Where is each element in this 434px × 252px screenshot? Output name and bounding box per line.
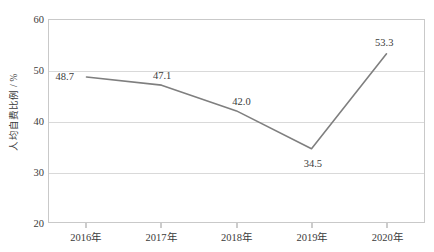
y-tick-label: 60 <box>14 14 48 25</box>
data-point-label: 53.3 <box>375 37 393 48</box>
data-point-label: 48.7 <box>56 70 74 81</box>
plot-area: 48.747.142.034.553.3 <box>48 19 425 223</box>
line-chart: 人均自费比例 / % 60 50 40 30 20 48.747.142.034… <box>0 0 434 252</box>
y-tick-label: 20 <box>14 218 48 229</box>
x-tick-mark <box>85 223 86 228</box>
x-tick-label: 2020年 <box>372 229 403 244</box>
series-line <box>49 20 424 222</box>
x-tick-mark <box>311 223 312 228</box>
y-tick-label: 30 <box>14 167 48 178</box>
data-point-label: 42.0 <box>232 95 250 106</box>
x-axis-tick-labels: 2016年2017年2018年2019年2020年 <box>48 229 425 249</box>
x-tick-mark <box>387 223 388 228</box>
x-tick-mark <box>236 223 237 228</box>
data-point-label: 34.5 <box>304 158 322 169</box>
y-axis-tick-labels: 60 50 40 30 20 <box>14 0 48 252</box>
y-tick-label: 50 <box>14 65 48 76</box>
x-tick-label: 2018年 <box>221 229 252 244</box>
x-tick-label: 2016年 <box>70 229 101 244</box>
x-tick-label: 2017年 <box>146 229 177 244</box>
x-tick-mark <box>161 223 162 228</box>
y-tick-label: 40 <box>14 116 48 127</box>
x-tick-label: 2019年 <box>296 229 327 244</box>
data-point-label: 47.1 <box>153 69 171 80</box>
